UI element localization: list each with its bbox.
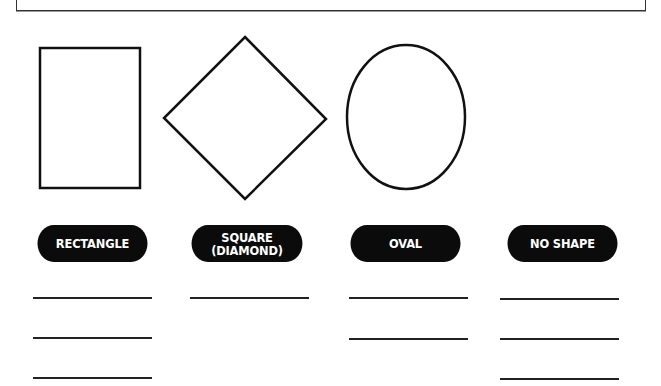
answer-line-square-1[interactable] — [190, 297, 309, 299]
answer-line-rectangle-2[interactable] — [33, 337, 152, 339]
answer-line-oval-1[interactable] — [349, 297, 468, 299]
answer-line-oval-2[interactable] — [349, 338, 468, 340]
answer-line-rectangle-1[interactable] — [33, 297, 152, 299]
category-label-square: SQUARE (DIAMOND) — [192, 225, 303, 262]
answer-line-rectangle-3[interactable] — [33, 377, 152, 379]
category-label-text: NO SHAPE — [530, 237, 595, 250]
category-label-rectangle: RECTANGLE — [38, 225, 148, 262]
answer-line-no-shape-2[interactable] — [500, 338, 619, 340]
category-label-text: SQUARE (DIAMOND) — [211, 231, 283, 257]
rectangle-shape — [40, 48, 140, 188]
oval-shape — [347, 45, 465, 189]
category-label-text: OVAL — [389, 237, 422, 250]
answer-line-no-shape-3[interactable] — [500, 378, 619, 380]
diamond-shape — [164, 37, 326, 199]
category-label-text: RECTANGLE — [56, 237, 129, 250]
shapes-figure — [0, 0, 661, 386]
answer-line-no-shape-1[interactable] — [500, 298, 619, 300]
category-label-oval: OVAL — [351, 225, 461, 262]
category-label-no-shape: NO SHAPE — [508, 225, 618, 262]
